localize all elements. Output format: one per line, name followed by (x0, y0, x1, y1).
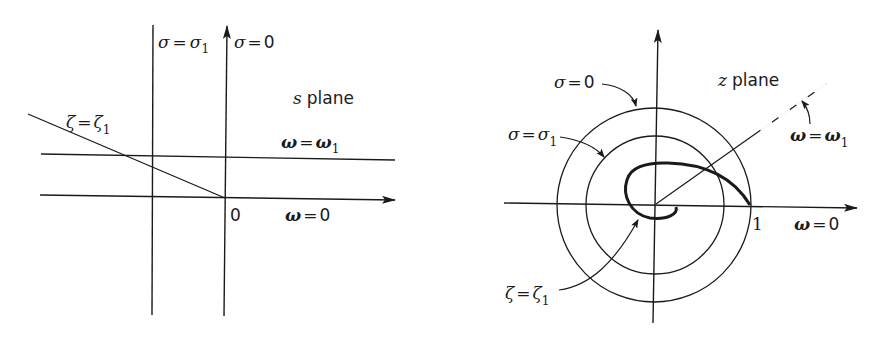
sigma-sigma1-line (152, 25, 153, 315)
label-sigma-sigma1-z: σ=σ1 (508, 124, 557, 149)
s-imaginary-axis (224, 26, 227, 316)
z-plane-title: zplane (717, 70, 779, 90)
zeta-zeta1-spiral (626, 163, 750, 218)
label-origin-s: 0 (230, 205, 241, 225)
omega-omega1-line (41, 154, 395, 160)
label-sigma-zero-s: σ=0 (234, 32, 275, 52)
label-omega-omega1-s: ω=ω1 (281, 132, 339, 156)
s-plane-to-z-plane-mapping-diagram: σ=σ1 σ=0 splane ζ=ζ1 ω=ω1 0 ω=0 (0, 0, 882, 338)
label-omega-zero-z: ω=0 (794, 214, 839, 234)
label-sigma-zero-z: σ=0 (554, 72, 595, 92)
label-sigma-sigma1-s: σ=σ1 (158, 32, 209, 56)
sigma-zero-pointer-arrow (602, 84, 636, 106)
s-plane-panel: σ=σ1 σ=0 splane ζ=ζ1 ω=ω1 0 ω=0 (28, 25, 395, 316)
s-real-axis (40, 195, 395, 200)
label-omega-zero-s: ω=0 (285, 205, 330, 225)
z-plane-panel: σ=0 zplane σ=σ1 ω=ω1 1 ω=0 ζ=ζ1 (504, 30, 857, 323)
label-zeta-zeta1-z: ζ=ζ1 (505, 283, 549, 308)
label-unit-one: 1 (752, 214, 763, 234)
z-imaginary-axis (653, 30, 658, 323)
omega-omega1-pointer-arrow (802, 101, 810, 124)
label-omega-omega1-z: ω=ω1 (790, 125, 848, 150)
s-plane-title: splane (293, 88, 354, 108)
